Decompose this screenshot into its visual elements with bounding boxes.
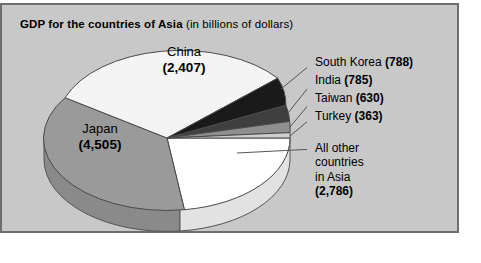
leader-line-south-korea xyxy=(281,61,307,89)
legend-value-taiwan: (630) xyxy=(356,91,384,105)
legend-label-india: India xyxy=(315,73,344,87)
legend-item-taiwan: Taiwan (630) xyxy=(315,91,384,106)
legend-label-all-other-line1: All other xyxy=(315,141,359,155)
chart-title-main: GDP for the countries of Asia xyxy=(20,18,183,30)
legend-item-india: India (785) xyxy=(315,73,372,88)
chart-screenshot: GDP for the countries of Asia (in billio… xyxy=(0,0,481,263)
pie-label-china-name: China xyxy=(167,44,201,59)
pie-label-china-value: (2,407) xyxy=(138,60,230,75)
leader-line-india xyxy=(288,79,307,113)
legend-label-all-other-line3: in Asia xyxy=(315,170,350,184)
legend-label-turkey: Turkey xyxy=(315,109,355,123)
pie-label-japan: Japan (4,505) xyxy=(54,122,146,152)
legend-item-turkey: Turkey (363) xyxy=(315,109,383,124)
legend-value-all-other: (2,786) xyxy=(315,184,353,198)
leader-line-taiwan xyxy=(290,97,307,127)
pie-label-japan-value: (4,505) xyxy=(54,137,146,152)
leader-line-turkey xyxy=(290,115,307,136)
chart-title-unit: (in billions of dollars) xyxy=(183,18,294,30)
legend-label-taiwan: Taiwan xyxy=(315,91,356,105)
legend-value-turkey: (363) xyxy=(355,109,383,123)
legend-value-south-korea: (788) xyxy=(385,55,413,69)
legend-item-south-korea: South Korea (788) xyxy=(315,55,413,70)
legend-item-all-other: All other countries in Asia (2,786) xyxy=(315,141,425,199)
legend-label-all-other-line2: countries xyxy=(315,155,364,169)
chart-title: GDP for the countries of Asia (in billio… xyxy=(20,18,293,30)
chart-panel: GDP for the countries of Asia (in billio… xyxy=(0,3,459,233)
legend-label-south-korea: South Korea xyxy=(315,55,385,69)
pie-label-china: China (2,407) xyxy=(138,45,230,75)
legend-value-india: (785) xyxy=(344,73,372,87)
pie-label-japan-name: Japan xyxy=(82,121,117,136)
pie-slice-all-other xyxy=(167,138,290,210)
